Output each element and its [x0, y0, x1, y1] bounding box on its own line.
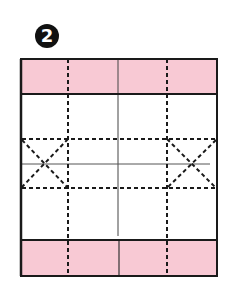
fold-diagram	[0, 0, 233, 302]
top-pink-band	[21, 59, 217, 94]
